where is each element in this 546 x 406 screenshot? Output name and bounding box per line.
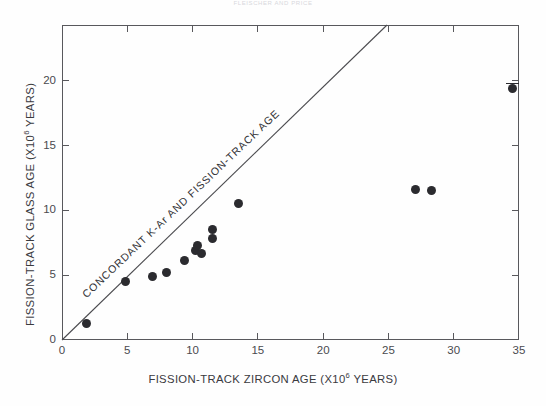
x-tick-bottom-15 [257, 333, 258, 340]
y-tick-right-20 [512, 80, 519, 81]
x-tick-bottom-30 [453, 333, 454, 340]
x-tick-label-5: 5 [107, 344, 147, 356]
x-tick-label-35: 35 [499, 344, 539, 356]
data-point [508, 84, 517, 93]
x-tick-bottom-25 [388, 333, 389, 340]
x-tick-top-15 [257, 25, 258, 32]
x-tick-bottom-5 [127, 333, 128, 340]
x-tick-label-20: 20 [303, 344, 343, 356]
y-tick-left-20 [62, 80, 69, 81]
y-tick-label-0: 0 [28, 333, 56, 345]
x-tick-top-20 [323, 25, 324, 32]
x-tick-bottom-10 [192, 333, 193, 340]
y-axis-title-exponent: 6 [22, 130, 31, 135]
y-tick-right-10 [512, 210, 519, 211]
x-tick-top-30 [453, 25, 454, 32]
x-tick-top-5 [127, 25, 128, 32]
data-point [162, 268, 171, 277]
x-tick-top-10 [192, 25, 193, 32]
data-point [197, 249, 206, 258]
figure-page: FLEISCHER AND PRICE CONCORDANT K-Ar AND … [0, 0, 546, 406]
y-axis-title-tail: YEARS) [24, 83, 36, 130]
y-tick-right-5 [512, 275, 519, 276]
y-axis-title-main: FISSION-TRACK GLASS AGE (X10 [24, 135, 36, 326]
x-tick-top-25 [388, 25, 389, 32]
y-axis-title: FISSION-TRACK GLASS AGE (X106 YEARS) [22, 83, 36, 326]
x-tick-bottom-20 [323, 333, 324, 340]
x-axis-title: FISSION-TRACK ZIRCON AGE (X106 YEARS) [0, 371, 546, 385]
x-axis-title-main: FISSION-TRACK ZIRCON AGE (X10 [148, 373, 345, 385]
running-head: FLEISCHER AND PRICE [0, 0, 546, 6]
y-tick-left-5 [62, 275, 69, 276]
x-axis-title-tail: YEARS) [350, 373, 397, 385]
x-tick-label-15: 15 [238, 344, 278, 356]
data-point [148, 272, 157, 281]
data-point [208, 225, 217, 234]
y-tick-right-15 [512, 145, 519, 146]
x-tick-label-0: 0 [42, 344, 82, 356]
y-tick-left-10 [62, 210, 69, 211]
x-tick-label-25: 25 [368, 344, 408, 356]
data-point [208, 234, 217, 243]
y-tick-left-15 [62, 145, 69, 146]
plot-frame [62, 25, 519, 340]
x-tick-label-10: 10 [173, 344, 213, 356]
x-tick-label-30: 30 [434, 344, 474, 356]
error-bar [506, 83, 519, 84]
data-point [82, 319, 91, 328]
